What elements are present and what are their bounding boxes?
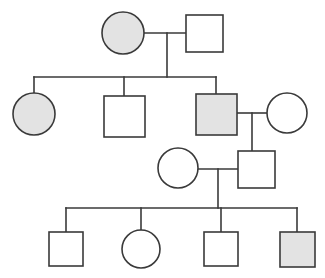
pedigree-female-unaffected-II-4 (267, 93, 307, 133)
pedigree-canvas (0, 0, 325, 278)
pedigree-female-affected-II-1 (13, 93, 55, 135)
pedigree-male-unaffected-III-2 (238, 151, 275, 188)
pedigree-male-affected-II-3 (196, 94, 237, 135)
pedigree-male-unaffected-IV-1 (49, 232, 83, 266)
pedigree-male-unaffected-IV-3 (204, 232, 238, 266)
pedigree-female-unaffected-IV-2 (122, 230, 160, 268)
pedigree-chart (0, 0, 325, 278)
pedigree-female-affected-I-1 (102, 12, 144, 54)
pedigree-female-unaffected-III-1 (158, 148, 198, 188)
pedigree-male-unaffected-II-2 (104, 96, 145, 137)
pedigree-male-unaffected-I-2 (186, 15, 223, 52)
pedigree-male-affected-IV-4 (280, 232, 315, 267)
